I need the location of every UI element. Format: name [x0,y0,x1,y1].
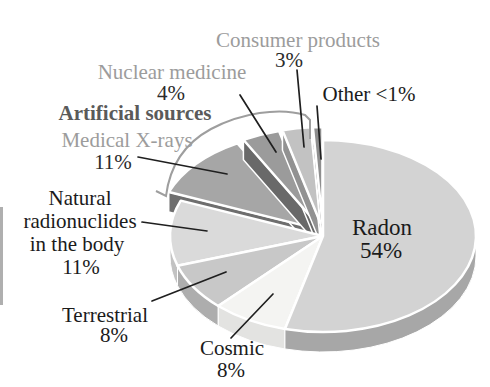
slice-label-natural-line1: Natural [49,186,112,210]
slice-pct-radon: 54% [360,238,402,263]
slice-pct-cosmic: 8% [217,358,245,382]
radiation-sources-pie-chart: Radon54%Cosmic8%Terrestrial8%Naturalradi… [0,0,490,387]
slice-label-natural-line2: radionuclides [23,209,136,233]
slice-label-cosmic: Cosmic [200,336,264,360]
pie-chart-figure: Radon54%Cosmic8%Terrestrial8%Naturalradi… [0,0,490,387]
slice-label-medical: Medical X-rays [61,128,192,152]
artificial-sources-group-label: Artificial sources [59,101,212,125]
slice-label-radon: Radon [352,215,413,240]
slice-pct-medical: 11% [94,150,132,174]
slice-pct-consumer: 3% [275,48,303,72]
slice-label-other: Other <1% [323,82,416,106]
scan-edge-artifact [0,207,3,305]
slice-label-natural-line3: in the body [30,232,125,256]
slice-pct-natural: 11% [62,255,100,279]
slice-pct-terrestrial: 8% [100,323,128,347]
